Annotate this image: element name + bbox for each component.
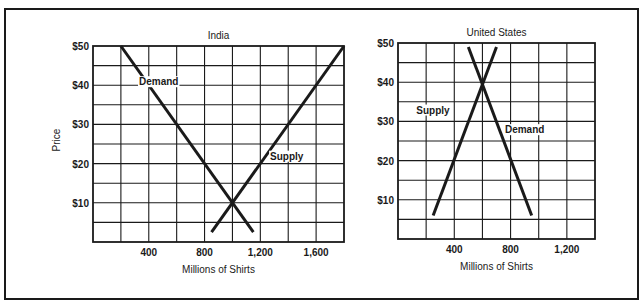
grid — [398, 43, 595, 239]
grid — [93, 46, 344, 242]
x-axis-label: Millions of Shirts — [460, 261, 533, 272]
y-tick-label: $10 — [72, 198, 89, 209]
x-tick-label: 1,600 — [304, 247, 329, 258]
supply-curve — [433, 47, 496, 216]
y-tick-label: $40 — [377, 77, 394, 88]
supply-demand-charts: India$10$20$30$40$504008001,2001,600Mill… — [0, 0, 642, 304]
demand-label: Demand — [139, 76, 178, 87]
x-tick-label: 800 — [196, 247, 213, 258]
chart-title: India — [208, 30, 230, 41]
supply-label: Supply — [416, 105, 450, 116]
y-tick-label: $20 — [377, 156, 394, 167]
x-tick-label: 1,200 — [248, 247, 273, 258]
x-tick-label: 1,200 — [554, 244, 579, 255]
demand-curve — [121, 46, 253, 232]
chart-title: United States — [466, 27, 526, 38]
y-tick-label: $20 — [72, 159, 89, 170]
x-axis-label: Millions of Shirts — [182, 264, 255, 275]
x-tick-label: 800 — [502, 244, 519, 255]
supply-curve — [212, 46, 344, 232]
y-tick-label: $50 — [72, 41, 89, 52]
y-tick-label: $30 — [72, 119, 89, 130]
demand-label: Demand — [505, 124, 544, 135]
y-axis-label: Price — [51, 128, 62, 151]
x-tick-label: 400 — [140, 247, 157, 258]
y-tick-label: $50 — [377, 38, 394, 49]
supply-label: Supply — [270, 151, 304, 162]
india-chart: India$10$20$30$40$504008001,2001,600Mill… — [51, 30, 344, 275]
united-states-chart: United States$10$20$30$40$504008001,200M… — [377, 27, 595, 272]
x-tick-label: 400 — [446, 244, 463, 255]
y-tick-label: $30 — [377, 116, 394, 127]
y-tick-label: $10 — [377, 195, 394, 206]
y-tick-label: $40 — [72, 80, 89, 91]
